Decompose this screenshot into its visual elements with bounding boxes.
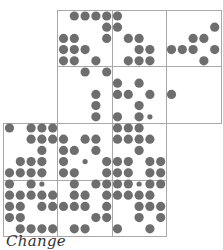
- dot: [135, 79, 144, 88]
- dot: [70, 45, 79, 54]
- small-dot: [137, 181, 142, 186]
- dot: [135, 45, 144, 54]
- dot: [124, 56, 133, 65]
- dot: [102, 157, 111, 166]
- dot: [167, 45, 176, 54]
- dot: [113, 191, 122, 200]
- dot: [135, 191, 144, 200]
- dot: [91, 146, 100, 155]
- dot: [70, 179, 79, 188]
- dot: [113, 123, 122, 132]
- dot: [37, 146, 46, 155]
- dot: [167, 90, 176, 99]
- dot: [48, 191, 57, 200]
- dot: [199, 34, 208, 43]
- dot: [135, 146, 144, 155]
- dot: [27, 157, 36, 166]
- dot: [102, 34, 111, 43]
- dot: [81, 45, 90, 54]
- dot: [59, 135, 68, 144]
- dot: [27, 135, 36, 144]
- dot: [135, 34, 144, 43]
- dot: [37, 135, 46, 144]
- dot: [70, 224, 79, 233]
- caption-label: Change: [6, 234, 66, 249]
- dot: [156, 213, 165, 222]
- dot: [37, 191, 46, 200]
- dot: [27, 168, 36, 177]
- dot: [113, 23, 122, 32]
- dot: [113, 135, 122, 144]
- dot: [113, 157, 122, 166]
- dot: [27, 191, 36, 200]
- dot: [5, 202, 14, 211]
- dot: [135, 56, 144, 65]
- dot: [37, 123, 46, 132]
- dot: [135, 123, 144, 132]
- dot: [135, 101, 144, 110]
- dot: [135, 112, 144, 121]
- dot: [16, 202, 25, 211]
- dot: [70, 191, 79, 200]
- dot: [145, 202, 154, 211]
- dot: [178, 45, 187, 54]
- dot: [113, 168, 122, 177]
- dot: [5, 123, 14, 132]
- dot: [59, 157, 68, 166]
- dot: [124, 90, 133, 99]
- dot: [70, 168, 79, 177]
- small-dot: [83, 159, 88, 164]
- dot: [48, 135, 57, 144]
- dot: [210, 23, 219, 32]
- dot: [16, 213, 25, 222]
- dot: [102, 179, 111, 188]
- dot: [70, 146, 79, 155]
- dot: [91, 179, 100, 188]
- dot: [102, 23, 111, 32]
- dot: [113, 79, 122, 88]
- dot: [91, 112, 100, 121]
- dot: [145, 157, 154, 166]
- dot: [145, 168, 154, 177]
- dot: [124, 179, 133, 188]
- dot: [102, 213, 111, 222]
- dot: [189, 34, 198, 43]
- dot: [27, 179, 36, 188]
- small-dot: [39, 181, 44, 186]
- dot: [135, 202, 144, 211]
- dot: [91, 11, 100, 20]
- grid-blocks: [4, 11, 222, 237]
- dot: [48, 202, 57, 211]
- dot: [199, 56, 208, 65]
- dot: [81, 11, 90, 20]
- dot: [91, 213, 100, 222]
- dot: [124, 191, 133, 200]
- dot: [59, 56, 68, 65]
- dot: [145, 90, 154, 99]
- dot: [102, 11, 111, 20]
- dot: [37, 202, 46, 211]
- dot: [156, 157, 165, 166]
- dot: [113, 11, 122, 20]
- dot: [113, 90, 122, 99]
- dot: [5, 179, 14, 188]
- dot: [156, 168, 165, 177]
- dot: [5, 213, 14, 222]
- dot: [81, 67, 90, 76]
- dot: [70, 56, 79, 65]
- dot: [124, 135, 133, 144]
- dot: [91, 101, 100, 110]
- dot: [145, 56, 154, 65]
- dot: [124, 123, 133, 132]
- dot: [102, 202, 111, 211]
- dot: [156, 179, 165, 188]
- dot: [5, 168, 14, 177]
- dot: [16, 168, 25, 177]
- dot: [135, 135, 144, 144]
- dot: [59, 34, 68, 43]
- dot: [70, 11, 79, 20]
- dot: [113, 112, 122, 121]
- dot: [59, 146, 68, 155]
- dot: [145, 191, 154, 200]
